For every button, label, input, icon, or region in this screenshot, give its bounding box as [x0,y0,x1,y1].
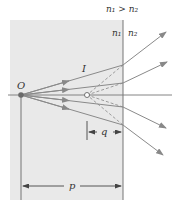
object-label: O [17,80,25,91]
object-point [18,92,24,98]
image-distance-label: q [101,126,107,137]
object-distance-label: p [69,180,76,191]
refraction-diagram: q p O I n₁ n₂ n₁ > n₂ [0,0,177,208]
refracted-rays [123,32,167,155]
refractive-index-condition: n₁ > n₂ [106,4,138,14]
medium-2-label: n₂ [128,28,138,38]
medium-1-region [10,20,123,200]
medium-1-label: n₁ [112,28,121,38]
image-point [85,93,90,98]
